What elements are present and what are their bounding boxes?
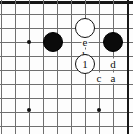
go-board[interactable]: ebdca1: [0, 0, 133, 134]
grid-line-vertical-1: [15, 0, 16, 134]
point-label-e[interactable]: e: [82, 37, 89, 48]
stone-white-move-1[interactable]: 1: [75, 54, 95, 74]
stone-move-number: 1: [76, 55, 94, 73]
grid-line-vertical-3: [43, 0, 44, 134]
point-label-a[interactable]: a: [110, 73, 117, 84]
point-label-c[interactable]: c: [96, 73, 103, 84]
go-diagram-root: ebdca1: [0, 0, 133, 134]
grid-line-vertical-5: [71, 0, 72, 134]
point-label-d[interactable]: d: [109, 59, 117, 70]
stone-white-2[interactable]: [75, 18, 95, 38]
grid-line-vertical-2: [29, 0, 30, 134]
star-point-0: [27, 40, 31, 44]
star-point-2: [97, 108, 101, 112]
grid-line-vertical-4: [57, 0, 58, 134]
star-point-1: [27, 108, 31, 112]
grid-line-vertical-9: [127, 0, 129, 134]
grid-line-vertical-7: [99, 0, 100, 134]
stone-black-0[interactable]: [43, 32, 63, 52]
stone-black-1[interactable]: [103, 32, 123, 52]
grid-line-vertical-0: [1, 0, 2, 134]
